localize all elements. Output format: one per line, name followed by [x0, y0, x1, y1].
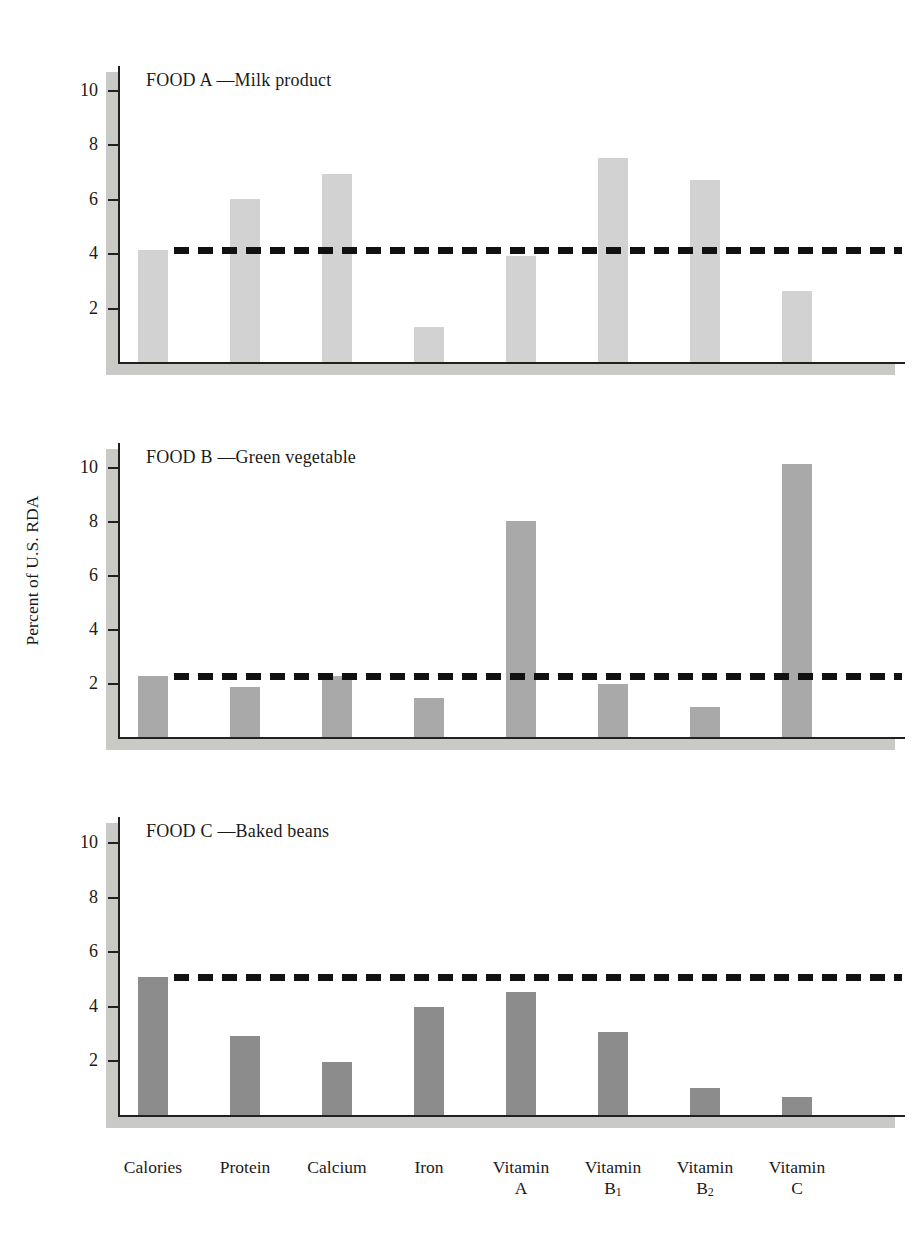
x-axis-line	[118, 1115, 905, 1117]
bar	[322, 676, 352, 737]
bar	[414, 327, 444, 362]
bar	[598, 1032, 628, 1115]
y-axis-tick	[108, 253, 118, 255]
x-axis-label-line1: Calcium	[291, 1157, 383, 1178]
bar	[506, 992, 536, 1115]
bar	[690, 180, 720, 362]
bar	[138, 676, 168, 737]
x-axis-label: Calcium	[291, 1157, 383, 1178]
y-axis-tick-label: 6	[64, 566, 98, 584]
x-axis-label-line2: C	[751, 1178, 843, 1199]
x-axis-label-line2: A	[475, 1178, 567, 1199]
y-axis-tick-label: 6	[64, 190, 98, 208]
bar	[782, 291, 812, 362]
axis-shadow-horizontal	[106, 364, 895, 375]
x-axis-label: Calories	[107, 1157, 199, 1178]
bar	[782, 1097, 812, 1115]
y-axis-tick-label: 10	[64, 81, 98, 99]
bar	[506, 256, 536, 362]
panel-title: FOOD C —Baked beans	[146, 821, 329, 842]
y-axis-tick	[108, 951, 118, 953]
axis-shadow-horizontal	[106, 1117, 895, 1128]
x-axis-line	[118, 362, 905, 364]
y-axis-line	[118, 66, 120, 364]
x-axis-label-line1: Protein	[199, 1157, 291, 1178]
reference-line	[174, 673, 902, 680]
y-axis-tick	[108, 683, 118, 685]
x-axis-label-line2: B1	[567, 1178, 659, 1199]
bar	[414, 698, 444, 737]
y-axis-tick	[108, 308, 118, 310]
y-axis-tick-label: 8	[64, 512, 98, 530]
y-axis-tick-label: 2	[64, 299, 98, 317]
reference-line	[174, 974, 902, 981]
y-axis-tick-label: 2	[64, 674, 98, 692]
y-axis-line	[118, 817, 120, 1117]
y-axis-tick	[108, 629, 118, 631]
y-axis-tick	[108, 1060, 118, 1062]
bar	[782, 464, 812, 737]
y-axis-tick	[108, 521, 118, 523]
reference-line	[174, 247, 902, 254]
x-axis-category-labels: CaloriesProteinCalciumIronVitaminAVitami…	[118, 1157, 908, 1227]
panel-title: FOOD A —Milk product	[146, 70, 332, 91]
y-axis-tick-label: 2	[64, 1051, 98, 1069]
x-axis-label-line1: Vitamin	[751, 1157, 843, 1178]
x-axis-label-line1: Vitamin	[659, 1157, 751, 1178]
y-axis-tick-label: 4	[64, 620, 98, 638]
y-axis-tick-label: 4	[64, 244, 98, 262]
y-axis-tick	[108, 467, 118, 469]
y-axis-tick-label: 10	[64, 833, 98, 851]
x-axis-label: VitaminC	[751, 1157, 843, 1198]
bar	[138, 250, 168, 362]
y-axis-tick	[108, 1006, 118, 1008]
bar	[322, 1062, 352, 1115]
x-axis-label-line2: B2	[659, 1178, 751, 1199]
x-axis-label: VitaminB1	[567, 1157, 659, 1198]
x-axis-label-line1: Vitamin	[475, 1157, 567, 1178]
nutrition-panel-figure: Percent of U.S. RDA 246810FOOD A —Milk p…	[0, 0, 915, 1241]
y-axis-label: Percent of U.S. RDA	[22, 461, 43, 681]
bar	[598, 158, 628, 362]
x-axis-line	[118, 737, 905, 739]
y-axis-tick	[108, 842, 118, 844]
y-axis-tick	[108, 144, 118, 146]
bar	[230, 687, 260, 737]
bar	[230, 199, 260, 362]
y-axis-tick	[108, 897, 118, 899]
bar	[690, 1088, 720, 1115]
x-axis-label: VitaminB2	[659, 1157, 751, 1198]
y-axis-tick-label: 10	[64, 458, 98, 476]
x-axis-label-line1: Iron	[383, 1157, 475, 1178]
x-axis-label: VitaminA	[475, 1157, 567, 1198]
bar	[506, 521, 536, 737]
panel-title: FOOD B —Green vegetable	[146, 447, 356, 468]
axis-shadow-horizontal	[106, 739, 895, 750]
axis-shadow-vertical	[106, 72, 118, 374]
y-axis-tick-label: 6	[64, 942, 98, 960]
y-axis-tick	[108, 90, 118, 92]
x-axis-label-line1: Vitamin	[567, 1157, 659, 1178]
y-axis-tick	[108, 575, 118, 577]
bar	[598, 684, 628, 737]
bar	[138, 977, 168, 1115]
y-axis-tick-label: 8	[64, 135, 98, 153]
y-axis-line	[118, 443, 120, 739]
bar	[230, 1036, 260, 1115]
y-axis-tick-label: 8	[64, 888, 98, 906]
y-axis-tick	[108, 199, 118, 201]
axis-shadow-vertical	[106, 449, 118, 749]
bar	[690, 707, 720, 737]
y-axis-tick-label: 4	[64, 997, 98, 1015]
bar	[322, 174, 352, 362]
x-axis-label: Iron	[383, 1157, 475, 1178]
bar	[414, 1007, 444, 1115]
axis-shadow-vertical	[106, 823, 118, 1127]
x-axis-label-line1: Calories	[107, 1157, 199, 1178]
x-axis-label: Protein	[199, 1157, 291, 1178]
